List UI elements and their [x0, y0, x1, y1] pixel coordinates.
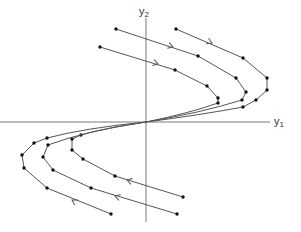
phase-portrait-diagram: y2 y1 [0, 0, 301, 232]
sample-point [51, 168, 54, 171]
sample-point [254, 98, 257, 101]
trajectory-lower-outer [20, 122, 146, 216]
sample-point [45, 136, 48, 139]
y2-axis-label: y2 [139, 6, 149, 19]
trajectory-path [43, 145, 177, 214]
sample-point [265, 88, 268, 91]
trajectory-lower-middle [41, 122, 178, 216]
sample-point [173, 68, 176, 71]
sample-point [32, 141, 35, 144]
sample-point [41, 155, 44, 158]
sample-point [22, 166, 25, 169]
y2-label-sub: 2 [145, 10, 149, 19]
sample-point [20, 153, 23, 156]
sample-point [70, 148, 73, 151]
sample-point [265, 76, 268, 79]
sample-point [244, 90, 247, 93]
phase-portrait-canvas [0, 0, 301, 232]
y1-label-sub: 1 [280, 120, 284, 129]
sample-point [241, 105, 244, 108]
sample-point [98, 45, 101, 48]
sample-point [89, 186, 92, 189]
sample-point [114, 27, 117, 30]
sample-point [181, 195, 184, 198]
trajectories [20, 27, 268, 215]
trajectory-tail [48, 122, 146, 145]
sample-point [113, 174, 116, 177]
sample-point [240, 98, 243, 101]
sample-point [174, 27, 177, 30]
trajectory-path [72, 135, 183, 197]
sample-point [241, 56, 244, 59]
sample-point [46, 143, 49, 146]
trajectory-upper-middle [114, 27, 247, 122]
sample-point [109, 212, 112, 215]
sample-point [205, 84, 208, 87]
y1-axis-label: y1 [274, 116, 284, 129]
sample-point [216, 101, 219, 104]
trajectory-path [116, 29, 246, 100]
trajectory-upper-outer [146, 27, 269, 122]
sample-point [196, 54, 199, 57]
sample-point [175, 212, 178, 215]
sample-point [81, 157, 84, 160]
trajectory-path [176, 29, 267, 107]
trajectory-path [100, 47, 218, 103]
sample-point [45, 186, 48, 189]
sample-point [216, 96, 219, 99]
sample-point [234, 76, 237, 79]
trajectory-tail [146, 103, 218, 122]
